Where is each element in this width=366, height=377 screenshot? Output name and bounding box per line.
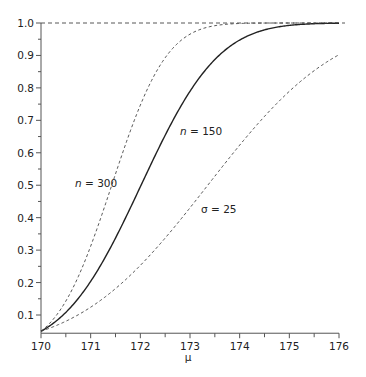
x-tick-label: 175 <box>279 340 299 352</box>
x-tick-label: 172 <box>130 340 150 352</box>
y-tick-label: 0.2 <box>17 277 34 289</box>
y-tick-label: 0.5 <box>17 179 34 191</box>
y-tick-label: 0.4 <box>17 212 34 224</box>
axes: 0.10.20.30.40.50.60.70.80.91.01701711721… <box>17 17 349 352</box>
x-tick-label: 176 <box>329 340 349 352</box>
y-tick-label: 0.3 <box>17 244 34 256</box>
y-tick-label: 0.8 <box>17 82 34 94</box>
y-tick-label: 1.0 <box>17 17 34 29</box>
y-tick-label: 0.7 <box>17 114 34 126</box>
y-tick-label: 0.1 <box>17 309 34 321</box>
x-tick-label: 174 <box>230 340 250 352</box>
y-tick-label: 0.6 <box>17 147 34 159</box>
annotation-n300: n = 300 <box>75 177 117 189</box>
x-tick-label: 171 <box>81 340 101 352</box>
x-tick-label: 170 <box>31 340 51 352</box>
y-tick-label: 0.9 <box>17 49 34 61</box>
annotation-n150: n = 150 <box>180 125 222 137</box>
power-curve-chart: 0.10.20.30.40.50.60.70.80.91.01701711721… <box>0 0 366 377</box>
x-axis-label: μ <box>185 351 192 363</box>
annotation-sigma25: σ = 25 <box>201 203 237 215</box>
